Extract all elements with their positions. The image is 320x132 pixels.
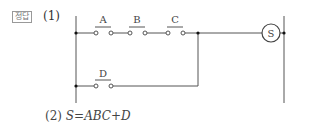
junction-dot bbox=[282, 31, 285, 34]
formula-rhs: ABC+D bbox=[84, 109, 131, 123]
contact-a-right-terminal bbox=[109, 31, 113, 35]
formula-eq: = bbox=[74, 109, 84, 123]
junction-dot bbox=[196, 31, 199, 34]
contact-a-left-terminal bbox=[94, 31, 98, 35]
boolean-formula: (2) S=ABC+D bbox=[45, 109, 131, 123]
contact-b-label: B bbox=[133, 14, 140, 25]
junction-dot bbox=[74, 31, 77, 34]
contact-d-label: D bbox=[99, 68, 107, 79]
formula-lhs: S bbox=[66, 109, 74, 123]
contact-c-label: C bbox=[171, 14, 179, 25]
part2-label: (2) bbox=[45, 109, 62, 123]
load-s-label: S bbox=[268, 28, 275, 39]
junction-dot bbox=[74, 84, 77, 87]
contact-a-label: A bbox=[98, 14, 107, 25]
